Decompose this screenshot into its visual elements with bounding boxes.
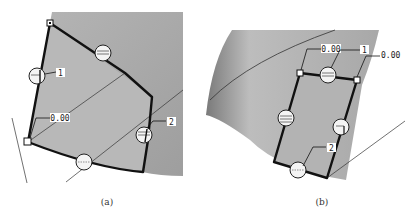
caption-b: (b) (316, 197, 329, 207)
panel-b: 0.00 1 0.00 2 (b) (206, 30, 405, 207)
edge-handle[interactable] (320, 67, 336, 83)
value-tag-left-label: 0.00 (321, 45, 340, 54)
caption-a: (a) (101, 197, 113, 207)
vertex-marker[interactable] (297, 70, 303, 76)
value-tag-right-label: 0.00 (381, 51, 400, 60)
vertex-marker[interactable] (24, 138, 31, 145)
tag-2-label: 2 (169, 118, 174, 127)
panel-a: 1 0.00 2 (a) (12, 12, 183, 207)
tag-1-label-b: 1 (362, 46, 367, 55)
edge-handle[interactable] (278, 110, 294, 126)
value-tag-label: 0.00 (50, 114, 69, 123)
edge-handle[interactable] (136, 127, 152, 143)
edge-handle[interactable] (333, 119, 349, 135)
edge-handle[interactable] (76, 154, 92, 170)
edge-handle[interactable] (95, 45, 111, 61)
tag-1-label: 1 (58, 69, 63, 78)
construction-line (12, 118, 27, 183)
vertex-marker[interactable] (354, 77, 360, 83)
figure-canvas: 1 0.00 2 (a) (0, 0, 409, 211)
tag-2-label-b: 2 (329, 144, 334, 153)
edge-handle[interactable] (29, 68, 45, 84)
